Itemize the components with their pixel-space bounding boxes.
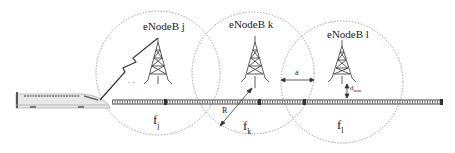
overlap-arrow <box>281 78 314 82</box>
tower-icon-l <box>328 40 356 84</box>
wireless-link-icon <box>100 38 158 100</box>
overlap-label: a <box>295 68 299 77</box>
cell-label-k: eNodeB k <box>229 18 273 30</box>
railway-track <box>112 99 443 105</box>
ellipsis-dots: . . <box>128 75 135 85</box>
diagram-canvas: . . <box>0 0 455 153</box>
dmin-arrow <box>345 84 349 98</box>
freq-label-l: fl <box>337 117 344 135</box>
freq-label-k: fk <box>243 118 251 136</box>
tower-icon-j <box>144 38 172 84</box>
diagram: . . eNodeB j eNodeB k eNod <box>0 0 455 153</box>
tower-icon-k <box>241 36 269 88</box>
cell-label-j: eNodeB j <box>143 20 185 32</box>
cell-label-l: eNodeB l <box>327 28 369 40</box>
dmin-label: dmin <box>350 84 361 93</box>
freq-label-j: fj <box>153 112 160 130</box>
train-icon <box>16 92 110 108</box>
radius-label: R <box>222 106 227 115</box>
